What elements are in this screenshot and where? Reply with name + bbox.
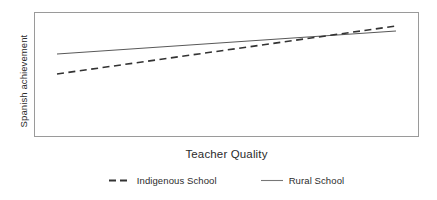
legend-item-indigenous-school[interactable]: Indigenous School: [109, 175, 217, 186]
series-line-rural-school: [57, 31, 396, 54]
chart-legend: Indigenous School Rural School: [34, 175, 419, 186]
legend-label-rural-school: Rural School: [289, 175, 345, 186]
legend-item-rural-school[interactable]: Rural School: [261, 175, 345, 186]
legend-swatch-solid-line-icon: [261, 176, 283, 185]
interaction-plot-figure: Spanish achievement Teacher Quality Indi…: [0, 0, 437, 200]
series-layer: [34, 12, 419, 137]
y-axis-label: Spanish achievement: [17, 11, 31, 151]
legend-label-indigenous-school: Indigenous School: [137, 175, 217, 186]
legend-swatch-dashed-line-icon: [109, 176, 131, 185]
x-axis-label: Teacher Quality: [34, 148, 419, 160]
